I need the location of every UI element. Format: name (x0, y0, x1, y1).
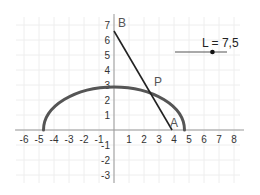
slider-label: L = 7,5 (202, 36, 239, 50)
y-tick-label: 1 (104, 110, 110, 121)
point-b-label[interactable]: B (118, 16, 126, 30)
y-tick-label: -1 (101, 140, 110, 151)
graphics-view[interactable]: -6-5-4-3-2-112345678 -3-2-11234567 B A P… (0, 0, 260, 195)
x-tick-label: -4 (50, 134, 59, 145)
y-tick-label: 2 (104, 95, 110, 106)
y-tick-label: 5 (104, 50, 110, 61)
y-tick-label: 3 (104, 80, 110, 91)
x-tick-label: -6 (20, 134, 29, 145)
x-tick-label: 1 (126, 134, 132, 145)
x-axis-tick-labels: -6-5-4-3-2-112345678 (20, 134, 238, 145)
x-tick-label: -2 (80, 134, 89, 145)
slider-l[interactable]: L = 7,5 (175, 36, 239, 54)
x-tick-label: 7 (216, 134, 222, 145)
x-tick-label: 2 (141, 134, 147, 145)
point-p-label[interactable]: P (154, 75, 162, 89)
slider-knob[interactable] (210, 50, 215, 55)
y-tick-label: 4 (104, 65, 110, 76)
x-tick-label: 4 (171, 134, 177, 145)
point-a-label[interactable]: A (170, 116, 178, 130)
y-tick-label: -3 (101, 170, 110, 181)
x-tick-label: -5 (35, 134, 44, 145)
y-tick-label: 6 (104, 35, 110, 46)
y-tick-label: -2 (101, 155, 110, 166)
x-tick-label: 6 (201, 134, 207, 145)
x-tick-label: 3 (156, 134, 162, 145)
x-tick-label: 8 (231, 134, 237, 145)
y-tick-label: 7 (104, 20, 110, 31)
x-tick-label: -3 (65, 134, 74, 145)
x-tick-label: 5 (186, 134, 192, 145)
